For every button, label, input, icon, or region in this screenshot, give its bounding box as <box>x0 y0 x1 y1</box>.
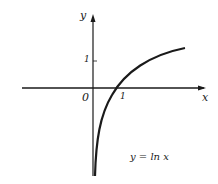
chart-canvas <box>0 0 218 184</box>
x-axis-arrow-icon <box>198 86 206 91</box>
x-axis-label: x <box>202 92 208 103</box>
origin-label: 0 <box>82 92 89 103</box>
curve-annotation: y = ln x <box>130 152 169 162</box>
y-axis-label: y <box>80 10 86 21</box>
x-tick-label: 1 <box>120 92 126 101</box>
y-axis-arrow-icon <box>91 14 96 22</box>
y-tick-label: 1 <box>84 55 90 64</box>
